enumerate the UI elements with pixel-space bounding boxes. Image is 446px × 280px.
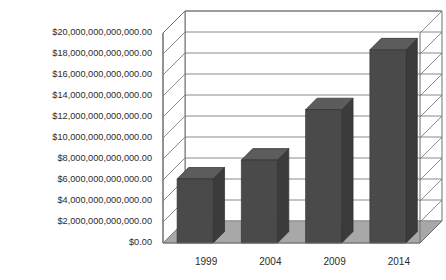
bar-front-face [370,50,406,243]
bar-front-face [177,179,213,243]
y-axis-tick-label: $20,000,000,000,000.00 [52,27,152,37]
bar-side-face [406,38,417,243]
y-axis-tick-label: $16,000,000,000,000.00 [52,69,152,79]
bar-side-face [342,98,353,243]
y-axis-tick-label: $8,000,000,000,000.00 [57,153,152,163]
y-axis-tick-label: $6,000,000,000,000.00 [57,174,152,184]
y-axis-tick-label: $14,000,000,000,000.00 [52,90,152,100]
y-axis-tick-label: $18,000,000,000,000.00 [52,48,152,58]
bar-front-face [241,160,277,243]
bar-front-face [306,110,342,243]
bar-side-face [277,149,288,243]
x-axis-tick-label: 1999 [195,256,218,267]
x-axis-tick-label: 2004 [259,256,282,267]
bar-2004 [241,149,288,243]
y-axis-tick-label: $12,000,000,000,000.00 [52,111,152,121]
x-axis-tick-label: 2009 [324,256,347,267]
chart-canvas: $20,000,000,000,000.00$18,000,000,000,00… [0,0,446,280]
y-axis-tick-label: $2,000,000,000,000.00 [57,216,152,226]
bar-1999 [177,168,224,243]
bar-2009 [306,98,353,243]
bar-chart: $20,000,000,000,000.00$18,000,000,000,00… [0,0,446,280]
x-axis-tick-label: 2014 [388,256,411,267]
y-axis-tick-label: $10,000,000,000,000.00 [52,132,152,142]
y-axis-tick-label: $0.00 [129,237,152,247]
bar-side-face [213,168,224,243]
y-axis-tick-label: $4,000,000,000,000.00 [57,195,152,205]
bar-2014 [370,38,417,243]
